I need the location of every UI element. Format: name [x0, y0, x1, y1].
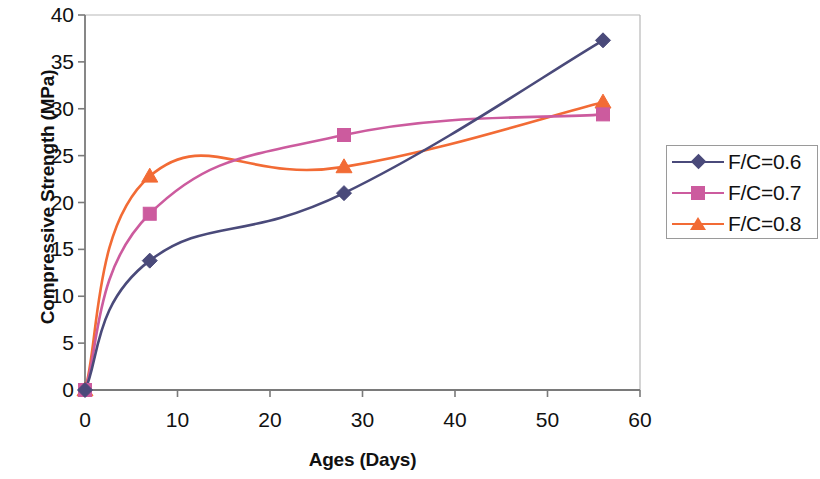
legend-sample-1 [672, 150, 724, 174]
legend-label: F/C=0.8 [728, 212, 801, 236]
legend-marker-diamond-icon [691, 153, 707, 169]
legend-item-3[interactable]: F/C=0.8 [667, 208, 819, 239]
data-point-square [143, 207, 156, 220]
chart-figure: Compressive Strength (MPa) Ages (Days) 0… [0, 0, 820, 479]
legend-label: F/C=0.7 [728, 181, 801, 205]
data-point-triangle [595, 94, 611, 108]
data-point-square [338, 129, 351, 142]
series-line-3 [85, 102, 603, 390]
legend-marker-square-icon [691, 186, 705, 200]
plot-area [0, 0, 820, 479]
legend-marker-triangle-icon [690, 217, 706, 230]
legend-sample-2 [672, 181, 724, 205]
legend-item-2[interactable]: F/C=0.7 [667, 177, 819, 208]
legend-box: F/C=0.6F/C=0.7F/C=0.8 [666, 145, 818, 239]
legend-sample-3 [672, 212, 724, 236]
data-point-diamond [596, 33, 611, 48]
legend-item-1[interactable]: F/C=0.6 [667, 146, 819, 177]
series-line-1 [85, 40, 603, 390]
legend-label: F/C=0.6 [728, 150, 801, 174]
data-point-square [597, 108, 610, 121]
data-point-diamond [337, 186, 352, 201]
